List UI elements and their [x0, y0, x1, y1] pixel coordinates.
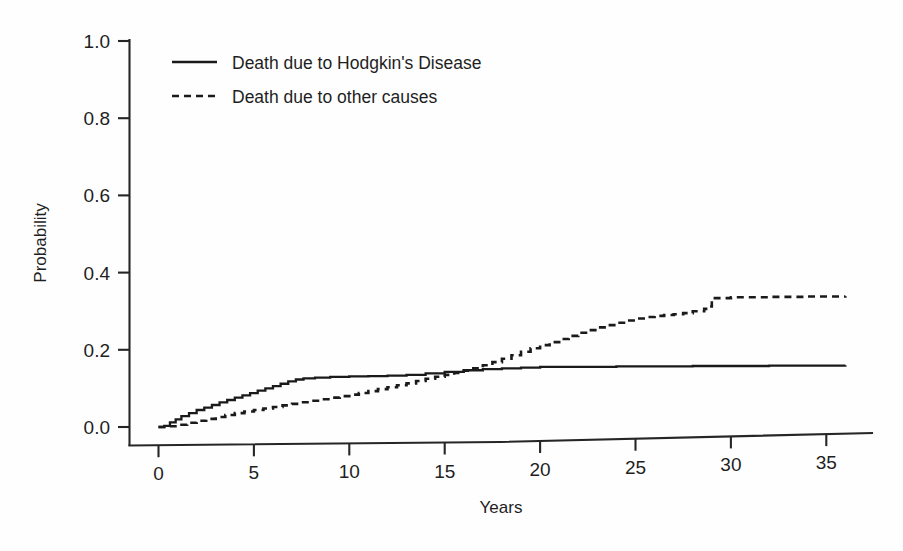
cumulative-incidence-chart: 0.00.20.40.60.81.0 05101520253035 Death …: [0, 0, 903, 551]
x-tick-label: 10: [339, 461, 360, 482]
x-tick-label: 20: [530, 459, 551, 480]
y-tick-label: 0.0: [84, 417, 110, 438]
x-axis-title: Years: [480, 498, 523, 517]
x-tick-label: 25: [625, 457, 646, 478]
x-tick-label: 15: [434, 461, 455, 482]
y-tick-label: 0.4: [84, 263, 111, 284]
x-tick-label: 30: [720, 454, 741, 475]
y-tick-label: 0.6: [84, 185, 110, 206]
y-tick-label: 0.8: [84, 108, 110, 129]
y-tick-label: 0.2: [84, 340, 110, 361]
y-axis-title: Probability: [31, 203, 50, 283]
legend-label-hodgkins-disease: Death due to Hodgkin's Disease: [232, 53, 481, 73]
x-tick-label: 35: [816, 452, 837, 473]
x-tick-label: 5: [249, 462, 260, 483]
y-tick-label: 1.0: [84, 31, 110, 52]
x-tick-label: 0: [153, 463, 164, 484]
legend-label-other-causes: Death due to other causes: [232, 87, 438, 107]
chart-figure: 0.00.20.40.60.81.0 05101520253035 Death …: [0, 0, 903, 551]
